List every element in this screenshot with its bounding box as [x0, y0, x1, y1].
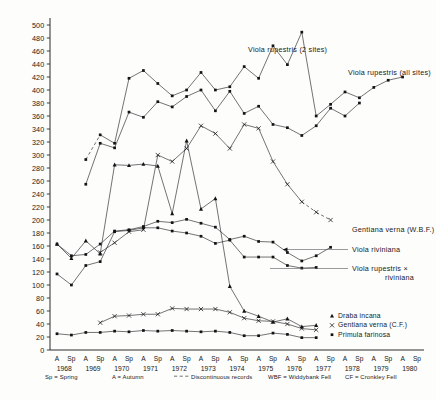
x-year-label-1973: 1973 [201, 365, 216, 372]
series-segment [259, 128, 273, 161]
data-point-triangle [84, 239, 88, 243]
data-point-square [329, 103, 332, 106]
series-segment [57, 334, 71, 335]
data-point-square [171, 95, 174, 98]
series-segment [273, 321, 287, 324]
data-point-square [84, 264, 87, 267]
series-segment [230, 332, 244, 335]
data-point-square [113, 142, 116, 145]
series-segment [302, 126, 316, 136]
data-point-square [113, 230, 116, 233]
data-point-cross [300, 200, 304, 204]
x-season-label-7: Sp [154, 355, 162, 363]
x-year-label-1971: 1971 [143, 365, 158, 372]
x-season-label-0: A [55, 355, 60, 362]
data-point-square [331, 333, 334, 336]
data-point-square [128, 77, 131, 80]
y-tick-label-180: 180 [32, 229, 45, 238]
y-tick-label-480: 480 [32, 34, 45, 43]
series-segment [187, 331, 201, 332]
data-point-square [243, 112, 246, 115]
series-segment [71, 332, 85, 335]
data-point-triangle [242, 309, 246, 313]
data-point-cross [285, 182, 289, 186]
series-segment [230, 312, 244, 318]
x-season-label-10: A [199, 355, 204, 362]
data-point-square [56, 273, 59, 276]
series-segment [230, 240, 244, 257]
x-season-label-20: A [343, 355, 348, 362]
series-segment [187, 72, 201, 90]
data-point-triangle [285, 317, 289, 321]
data-point-square [185, 89, 188, 92]
data-point-square [300, 336, 303, 339]
annotation-viola-rupestris-riviniana-2: riviniana [385, 273, 414, 282]
data-point-square [257, 334, 260, 337]
y-tick-label-240: 240 [32, 190, 45, 199]
y-tick-label-40: 40 [36, 320, 44, 329]
series-segment [100, 135, 114, 143]
y-tick-label-20: 20 [36, 333, 44, 342]
data-point-triangle [213, 196, 217, 200]
data-point-square [185, 95, 188, 98]
series-segment [287, 266, 301, 269]
series-segment [172, 231, 186, 233]
series-segment [115, 165, 129, 166]
series-segment [115, 316, 129, 317]
data-point-square [344, 91, 347, 94]
data-point-square [84, 331, 87, 334]
series-segment [172, 141, 186, 214]
x-season-label-23: Sp [384, 355, 392, 363]
x-season-label-24: A [400, 355, 405, 362]
y-tick-label-80: 80 [36, 294, 44, 303]
series-segment [273, 333, 287, 334]
footnote-discontinuous: Discontinuous records [191, 374, 252, 380]
data-point-square [171, 329, 174, 332]
x-season-label-25: Sp [413, 355, 421, 363]
data-point-square [257, 256, 260, 259]
series-segment [158, 102, 172, 107]
series-segment [215, 134, 229, 149]
data-point-square [99, 260, 102, 263]
data-point-square [171, 230, 174, 233]
data-point-square [214, 89, 217, 92]
data-point-square [142, 226, 145, 229]
series-segment [331, 92, 345, 104]
data-point-square [84, 183, 87, 186]
data-point-square [128, 330, 131, 333]
data-point-square [214, 242, 217, 245]
x-year-label-1972: 1972 [172, 365, 187, 372]
y-tick-label-440: 440 [32, 60, 45, 69]
data-point-square [272, 241, 275, 244]
x-year-label-1968: 1968 [57, 365, 72, 372]
y-tick-label-360: 360 [32, 112, 45, 121]
data-point-triangle [185, 139, 189, 143]
series-segment [302, 202, 316, 212]
data-point-cross [242, 122, 246, 126]
data-point-cross [228, 310, 232, 314]
y-tick-label-300: 300 [32, 151, 45, 160]
series-segment [244, 67, 258, 79]
series-segment [273, 124, 287, 127]
data-point-triangle [55, 242, 59, 246]
data-point-square [84, 158, 87, 161]
data-point-square [315, 254, 318, 257]
series-segment [115, 78, 129, 143]
x-season-label-1: Sp [67, 355, 75, 363]
data-point-square [286, 63, 289, 66]
y-tick-label-160: 160 [32, 242, 45, 251]
series-segment [158, 308, 172, 314]
series-segment [100, 331, 114, 332]
series-segment [345, 92, 359, 98]
x-season-label-5: Sp [125, 355, 133, 363]
series-segment [215, 199, 229, 287]
x-season-label-14: A [256, 355, 261, 362]
series-segment [172, 308, 186, 309]
x-year-label-1970: 1970 [114, 365, 129, 372]
series-segment [287, 184, 301, 202]
data-point-square [272, 123, 275, 126]
series-segment [259, 241, 273, 242]
series-segment [187, 126, 201, 149]
data-point-cross [314, 210, 318, 214]
x-year-label-1975: 1975 [258, 365, 273, 372]
